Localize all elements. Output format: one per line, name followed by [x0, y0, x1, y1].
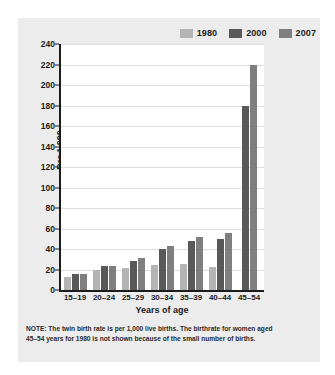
bar-2000-15–19 [72, 274, 79, 290]
bar-1980-25–29 [122, 268, 129, 290]
x-axis-label: Years of age [61, 305, 264, 315]
bar-group [148, 44, 177, 290]
x-axis-ticks: 15–1920–2425–2930–3435–3940–4445–54 [61, 293, 264, 305]
legend-item-2000: 2000 [229, 28, 266, 38]
note-line: 45–54 years for 1980 is not shown becaus… [26, 334, 298, 344]
legend-swatch-1980 [180, 29, 193, 38]
bar-group [90, 44, 119, 290]
x-tick-label: 15–19 [64, 293, 86, 302]
y-tick-label: 240 [33, 40, 55, 49]
plot-wrapper: Per 1,000 240220200180160140120100806040… [59, 44, 304, 316]
legend-label-2007: 2007 [296, 28, 316, 38]
legend-item-2007: 2007 [279, 28, 316, 38]
x-tick-label: 25–29 [122, 293, 144, 302]
bar-2007-25–29 [138, 258, 145, 290]
y-tick-label: 160 [33, 122, 55, 131]
x-axis-line [59, 290, 264, 292]
bar-2007-35–39 [196, 237, 203, 290]
y-tick-label: 80 [33, 204, 55, 213]
y-tick-label: 200 [33, 81, 55, 90]
note-line: NOTE: The twin birth rate is per 1,000 l… [26, 324, 298, 334]
y-axis-line [59, 44, 61, 291]
legend-label-1980: 1980 [197, 28, 217, 38]
bar-2000-20–24 [101, 266, 108, 290]
x-tick-label: 40–44 [209, 293, 231, 302]
y-tick-label: 20 [33, 265, 55, 274]
bar-group [235, 44, 264, 290]
chart-legend: 198020002007 [18, 26, 320, 40]
y-tick-label: 220 [33, 60, 55, 69]
bar-1980-40–44 [209, 267, 216, 290]
legend-item-1980: 1980 [180, 28, 217, 38]
bar-1980-15–19 [64, 277, 71, 290]
y-tick-label: 140 [33, 142, 55, 151]
bar-group [177, 44, 206, 290]
bar-1980-20–24 [93, 270, 100, 291]
bar-1980-35–39 [180, 264, 187, 290]
y-axis-ticks: 240220200180160140120100806040200 [33, 44, 55, 290]
bar-2007-45–54 [250, 65, 257, 291]
bar-group [119, 44, 148, 290]
bar-2007-40–44 [225, 233, 232, 290]
chart-note: NOTE: The twin birth rate is per 1,000 l… [26, 324, 298, 343]
bar-2000-30–34 [159, 249, 166, 290]
bar-2007-30–34 [167, 246, 174, 290]
bar-series-container [61, 44, 264, 290]
y-tick-label: 0 [33, 286, 55, 295]
legend-label-2000: 2000 [246, 28, 266, 38]
y-tick-label: 100 [33, 183, 55, 192]
bar-2000-35–39 [188, 241, 195, 290]
y-tick-label: 180 [33, 101, 55, 110]
y-tick-label: 40 [33, 245, 55, 254]
bar-group [61, 44, 90, 290]
chart-figure: 198020002007 Per 1,000 24022020018016014… [18, 18, 320, 362]
bar-2000-40–44 [217, 239, 224, 290]
bar-2000-45–54 [242, 106, 249, 291]
bar-group [206, 44, 235, 290]
x-tick-label: 30–34 [151, 293, 173, 302]
bar-2007-15–19 [80, 274, 87, 290]
bar-2000-25–29 [130, 261, 137, 290]
x-tick-label: 20–24 [93, 293, 115, 302]
legend-swatch-2007 [279, 29, 292, 38]
x-tick-label: 45–54 [238, 293, 260, 302]
bar-2007-20–24 [109, 266, 116, 290]
y-tick-label: 60 [33, 224, 55, 233]
bar-1980-30–34 [151, 265, 158, 290]
y-tick-label: 120 [33, 163, 55, 172]
legend-swatch-2000 [229, 29, 242, 38]
x-tick-label: 35–39 [180, 293, 202, 302]
